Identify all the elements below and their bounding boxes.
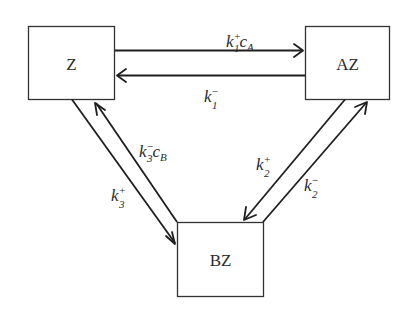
rate-label-k3-minus-cB: k−3cB <box>139 140 167 164</box>
arrow-z-to-az <box>115 44 303 57</box>
rate-label-k1-plus-cA: k+1cA <box>226 30 254 54</box>
rate-label-k1-minus: k−1 <box>204 85 219 111</box>
node-az: AZ <box>306 27 390 100</box>
arrow-z-to-bz <box>72 100 175 245</box>
node-bz: BZ <box>178 223 264 297</box>
rate-label-k3-plus: k+3 <box>111 184 126 210</box>
rate-label-k2-minus: k−2 <box>304 174 319 200</box>
node-z: Z <box>29 27 115 100</box>
rate-label-k2-plus: k+2 <box>256 153 271 179</box>
node-z-label: Z <box>66 55 76 74</box>
arrow-az-to-z <box>117 69 305 82</box>
reaction-diagram: Z AZ BZ k+1cA k−1 <box>0 0 416 313</box>
arrow-bz-to-az <box>263 102 367 222</box>
node-az-label: AZ <box>336 55 359 74</box>
node-bz-label: BZ <box>210 251 232 270</box>
